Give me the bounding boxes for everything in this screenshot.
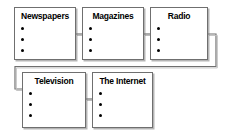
bullet-item bbox=[83, 23, 143, 34]
bullet-item bbox=[93, 99, 152, 110]
bullet-item bbox=[83, 45, 143, 56]
bullet-item bbox=[23, 110, 85, 121]
node-television-bullets bbox=[23, 88, 85, 121]
node-newspapers-title: Newspapers bbox=[15, 11, 75, 21]
node-newspapers-bullets bbox=[15, 23, 75, 56]
node-internet-bullets bbox=[93, 88, 152, 121]
node-magazines-title: Magazines bbox=[83, 11, 143, 21]
node-radio-bullets bbox=[151, 23, 207, 56]
node-television[interactable]: Television bbox=[22, 72, 86, 128]
node-magazines-bullets bbox=[83, 23, 143, 56]
bullet-item bbox=[151, 23, 207, 34]
node-internet[interactable]: The Internet bbox=[92, 72, 153, 128]
bullet-item bbox=[15, 23, 75, 34]
node-radio[interactable]: Radio bbox=[150, 7, 208, 60]
node-magazines[interactable]: Magazines bbox=[82, 7, 144, 60]
bullet-item bbox=[15, 34, 75, 45]
bullet-item bbox=[15, 45, 75, 56]
bullet-item bbox=[151, 45, 207, 56]
media-types-flow-diagram: Newspapers Magazines Radio Television bbox=[0, 0, 227, 134]
bullet-item bbox=[23, 88, 85, 99]
node-radio-title: Radio bbox=[151, 11, 207, 21]
bullet-item bbox=[83, 34, 143, 45]
bullet-item bbox=[23, 99, 85, 110]
node-television-title: Television bbox=[23, 76, 85, 86]
bullet-item bbox=[93, 110, 152, 121]
node-newspapers[interactable]: Newspapers bbox=[14, 7, 76, 60]
node-internet-title: The Internet bbox=[93, 76, 152, 86]
bullet-item bbox=[93, 88, 152, 99]
bullet-item bbox=[151, 34, 207, 45]
